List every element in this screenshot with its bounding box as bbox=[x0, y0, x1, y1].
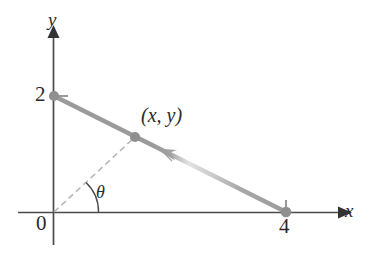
coordinate-plane-figure: y x 2 0 4 (x, y) θ bbox=[0, 0, 373, 255]
point-coordinates-label: (x, y) bbox=[141, 105, 182, 125]
radius-dashed-line bbox=[54, 137, 135, 212]
x-axis-label: x bbox=[345, 201, 353, 220]
diagram-canvas bbox=[0, 0, 373, 255]
x-axis bbox=[18, 207, 352, 219]
y-axis-label: y bbox=[48, 10, 56, 29]
angle-theta-label: θ bbox=[96, 183, 105, 201]
x-intercept-tick-label: 4 bbox=[279, 216, 290, 237]
y-intercept-tick-label: 2 bbox=[35, 84, 46, 105]
point-dot-xy bbox=[130, 132, 140, 142]
origin-label: 0 bbox=[36, 213, 47, 234]
point-dot-y-intercept bbox=[49, 91, 59, 101]
